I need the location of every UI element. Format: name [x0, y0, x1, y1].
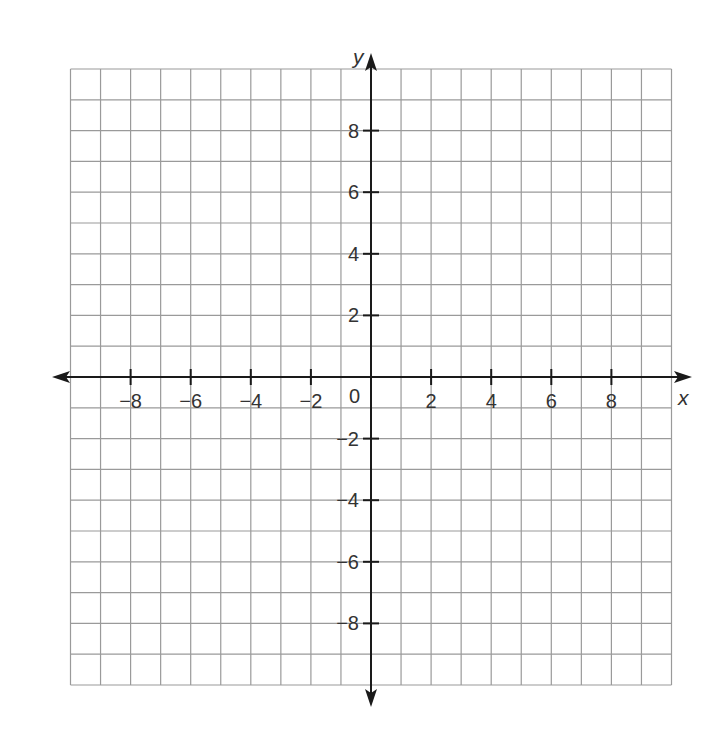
x-tick-label: 8 [606, 390, 617, 412]
x-tick-label: 2 [426, 390, 437, 412]
y-tick-label: 8 [348, 120, 359, 142]
y-tick-label: 4 [348, 243, 359, 265]
x-tick-label: −4 [239, 390, 262, 412]
axes [52, 53, 692, 707]
y-tick-label: −2 [336, 428, 359, 450]
y-tick-label: −8 [336, 612, 359, 634]
y-tick-label: −6 [336, 551, 359, 573]
y-tick-label: −4 [336, 489, 359, 511]
origin-label: 0 [349, 385, 360, 407]
y-axis-label: y [351, 45, 365, 68]
x-tick-label: −8 [119, 390, 142, 412]
y-tick-label: 2 [348, 304, 359, 326]
y-tick-label: 6 [348, 181, 359, 203]
x-tick-label: 4 [486, 390, 497, 412]
x-axis-label: x [677, 386, 690, 409]
x-tick-label: 6 [546, 390, 557, 412]
coordinate-plane: −8−6−4−224688642−2−4−6−8 x y 0 [0, 0, 725, 749]
x-tick-label: −6 [179, 390, 202, 412]
x-tick-label: −2 [299, 390, 322, 412]
